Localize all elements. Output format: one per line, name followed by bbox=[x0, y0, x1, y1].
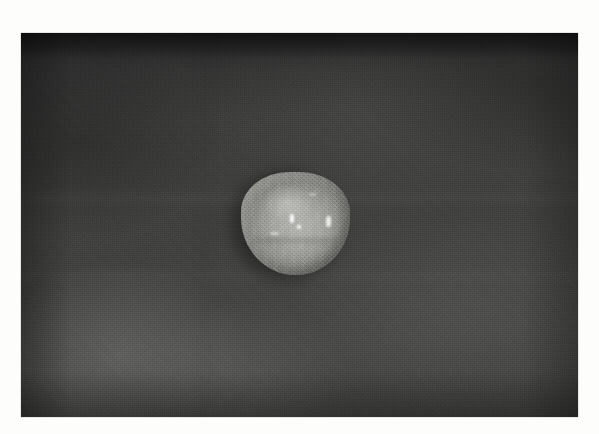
specimen-seam bbox=[251, 237, 340, 244]
specimen-speck-4 bbox=[270, 232, 279, 235]
specimen-speck-1 bbox=[290, 214, 294, 223]
page-root bbox=[0, 0, 599, 434]
specimen-speck-5 bbox=[309, 193, 316, 196]
figure-caption bbox=[21, 419, 578, 433]
specimen-body bbox=[241, 172, 350, 275]
specimen-film-grain bbox=[241, 172, 350, 275]
photograph-plate bbox=[21, 33, 578, 417]
specimen-speck-2 bbox=[297, 225, 301, 229]
specimen-group bbox=[220, 165, 352, 287]
specimen-surface-texture bbox=[241, 172, 350, 275]
specimen-speck-3 bbox=[326, 216, 331, 227]
